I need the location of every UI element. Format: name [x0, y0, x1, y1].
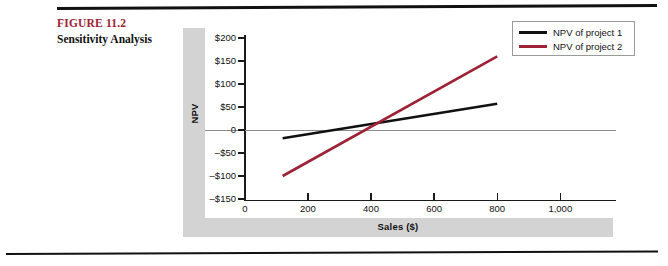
- series-line-2: [283, 56, 498, 176]
- legend-box: NPV of project 1 NPV of project 2: [512, 21, 635, 56]
- legend-item-series-1: NPV of project 1: [519, 26, 629, 39]
- legend-label-series-1: NPV of project 1: [553, 27, 622, 38]
- legend-label-series-2: NPV of project 2: [553, 41, 622, 52]
- legend-item-series-2: NPV of project 2: [519, 40, 629, 53]
- legend-swatch-series-2: [519, 45, 547, 48]
- figure-container: FIGURE 11.2 Sensitivity Analysis NPV Sal…: [0, 0, 668, 266]
- series-line-1: [283, 104, 498, 139]
- legend-swatch-series-1: [519, 31, 547, 34]
